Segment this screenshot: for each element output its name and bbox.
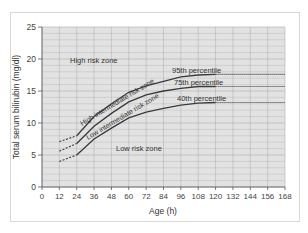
x-tick-label: 24 [72,192,81,201]
x-tick-label: 60 [124,192,133,201]
x-tick-label: 144 [244,192,258,201]
y-axis-label: Total serum bilirubin (mg/dl) [11,55,21,160]
x-tick-label: 168 [278,192,292,201]
curve-label-75th: 75th percentile [174,78,223,87]
y-tick-label: 5 [31,150,36,160]
zone-label-low-risk: Low risk zone [116,144,162,153]
x-tick-label: 132 [226,192,240,201]
y-tick-label: 10 [27,118,37,128]
x-tick-label: 36 [90,192,99,201]
x-axis-label: Age (h) [149,206,177,216]
x-tick-label: 96 [176,192,185,201]
x-tick-label: 84 [159,192,168,201]
x-tick-label: 156 [261,192,275,201]
x-tick-label: 0 [40,192,45,201]
x-tick-label: 12 [55,192,64,201]
x-tick-label: 48 [107,192,116,201]
bilirubin-nomogram-chart: 0510152025012243648607284961081201321441… [0,0,308,233]
x-tick-label: 120 [209,192,223,201]
y-tick-label: 20 [27,54,37,64]
y-tick-label: 25 [27,22,37,32]
zone-label-high-risk: High risk zone [70,56,118,65]
y-tick-label: 0 [31,182,36,192]
x-tick-label: 72 [142,192,151,201]
y-tick-label: 15 [27,86,37,96]
curve-label-40th: 40th percentile [177,94,226,103]
curve-label-95th: 95th percentile [172,66,221,75]
x-tick-label: 108 [192,192,206,201]
